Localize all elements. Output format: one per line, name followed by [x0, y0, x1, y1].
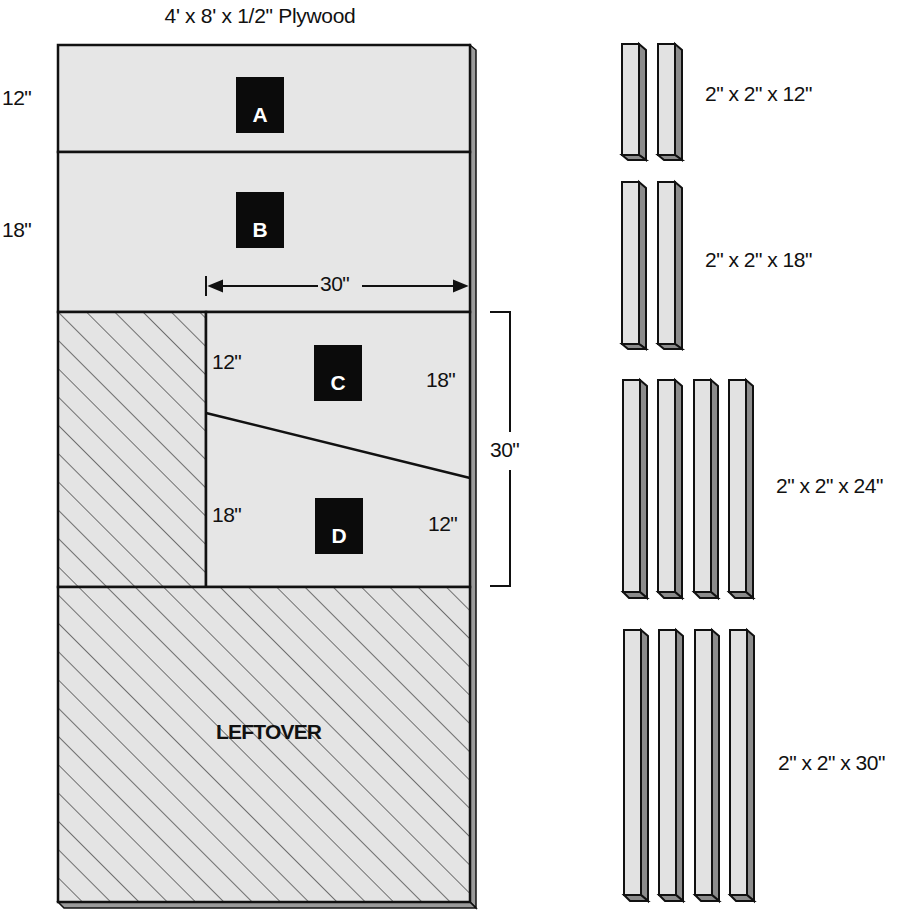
piece-d-left-label: 18": [212, 503, 241, 527]
piece-c-left-label: 12": [212, 350, 241, 374]
piece-d-right-label: 12": [428, 512, 457, 536]
piece-c-right-label: 18": [426, 368, 455, 392]
stock-label-30: 2" x 2" x 30": [778, 751, 885, 775]
offcut-left: [58, 312, 206, 587]
piece-d-tag: D: [315, 498, 363, 554]
stock-label-12: 2" x 2" x 12": [705, 82, 812, 106]
stock-bars-18: [622, 182, 682, 349]
piece-b-tag: B: [236, 192, 284, 248]
stock-bars-30: [624, 630, 754, 901]
piece-b-width-label: 30": [320, 272, 349, 296]
piece-a-tag: A: [236, 77, 284, 133]
leftover-label: LEFTOVER: [216, 720, 321, 744]
stock-bars-12: [622, 44, 682, 160]
piece-c-tag: C: [314, 345, 362, 401]
leftover-region: [58, 587, 470, 902]
piece-b-height-label: 18": [2, 218, 31, 242]
stock-label-18: 2" x 2" x 18": [705, 248, 812, 272]
piece-a-height-label: 12": [2, 86, 31, 110]
stock-label-24: 2" x 2" x 24": [776, 474, 883, 498]
cd-height-label: 30": [490, 438, 519, 462]
stock-bars-24: [623, 380, 753, 598]
cutting-diagram-graphics: [0, 0, 911, 916]
